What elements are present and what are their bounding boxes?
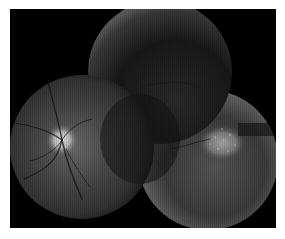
fundus-image-frame [10,9,276,228]
fundus-montage-image [10,9,276,228]
page [0,0,285,239]
